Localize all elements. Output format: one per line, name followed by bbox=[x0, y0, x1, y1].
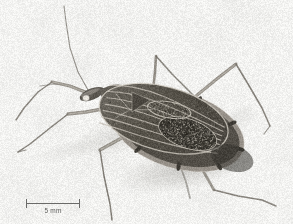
figure-plate: 5 mm Triatomine bug (kissing bug) dorsal… bbox=[0, 0, 293, 224]
insect-specimen-photograph bbox=[0, 0, 293, 224]
